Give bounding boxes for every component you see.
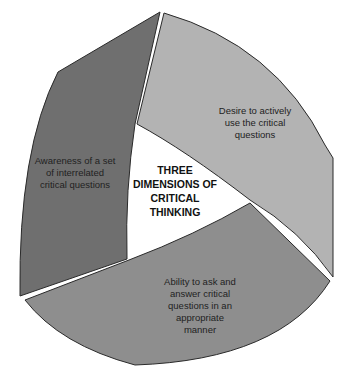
label-line: questions	[200, 129, 310, 141]
title-line: THINKING	[125, 205, 225, 219]
label-line: of interrelated	[22, 167, 128, 179]
label-line: Awareness of a set	[22, 155, 128, 167]
label-line: appropriate	[150, 312, 250, 324]
label-line: manner	[150, 324, 250, 336]
title-line: CRITICAL	[125, 191, 225, 205]
segment-awareness-label: Awareness of a set of interrelated criti…	[22, 155, 128, 191]
segment-ability-label: Ability to ask and answer critical quest…	[150, 276, 250, 336]
title-line: DIMENSIONS OF	[125, 177, 225, 191]
diagram-title: THREE DIMENSIONS OF CRITICAL THINKING	[125, 163, 225, 219]
label-line: answer critical	[150, 288, 250, 300]
label-line: Ability to ask and	[150, 276, 250, 288]
title-line: THREE	[125, 163, 225, 177]
label-line: questions in an	[150, 300, 250, 312]
segment-desire-label: Desire to actively use the critical ques…	[200, 105, 310, 141]
segment-awareness	[20, 12, 160, 296]
label-line: critical questions	[22, 179, 128, 191]
label-line: Desire to actively	[200, 105, 310, 117]
label-line: use the critical	[200, 117, 310, 129]
